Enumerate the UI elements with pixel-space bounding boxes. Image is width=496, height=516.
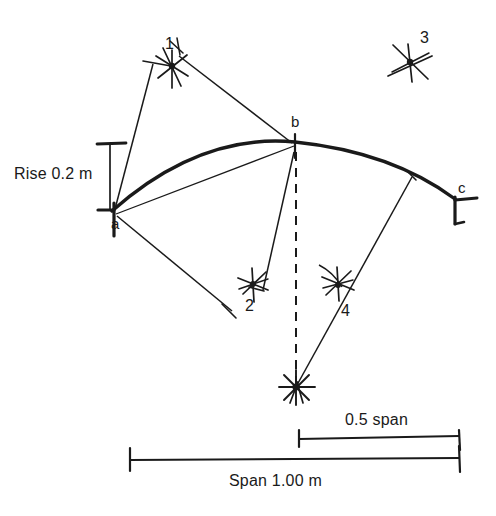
span-right-tick [459, 446, 460, 472]
ray-a-arrowhead-2 [222, 304, 236, 318]
ray-b-to-station-2 [263, 152, 294, 290]
ray-centre-to-arc-right [297, 177, 412, 385]
ray-a-to-station-2 [117, 216, 232, 311]
half-span-dimension-line [299, 436, 459, 439]
arch-diagram-svg [0, 0, 496, 516]
arc-centre-marker [279, 370, 315, 405]
diagram-canvas: Rise 0.2 m a b c 1 2 3 4 0.5 span Span 1… [0, 0, 496, 516]
station-label-1: 1 [165, 36, 174, 52]
point-label-b: b [291, 114, 299, 129]
ray-station1-to-b [179, 56, 292, 143]
station-label-2: 2 [245, 298, 254, 314]
station-marker-1 [156, 48, 188, 88]
station-label-3: 3 [420, 30, 429, 46]
span-label: Span 1.00 m [229, 473, 322, 489]
base-line-c [455, 198, 477, 200]
point-label-c: c [458, 180, 466, 195]
rise-label: Rise 0.2 m [14, 166, 92, 182]
rise-dimension-top-tick [97, 143, 126, 144]
point-label-a: a [111, 216, 119, 231]
half-span-label: 0.5 span [345, 412, 408, 428]
ray-station1-arrow-barb [177, 38, 180, 55]
span-dimension-line [130, 458, 459, 460]
ray-a-to-station-1 [115, 64, 153, 209]
chord-a-b [116, 146, 294, 214]
station-marker-3 [388, 44, 432, 82]
station-marker-4 [322, 267, 354, 301]
station-label-4: 4 [341, 303, 350, 319]
